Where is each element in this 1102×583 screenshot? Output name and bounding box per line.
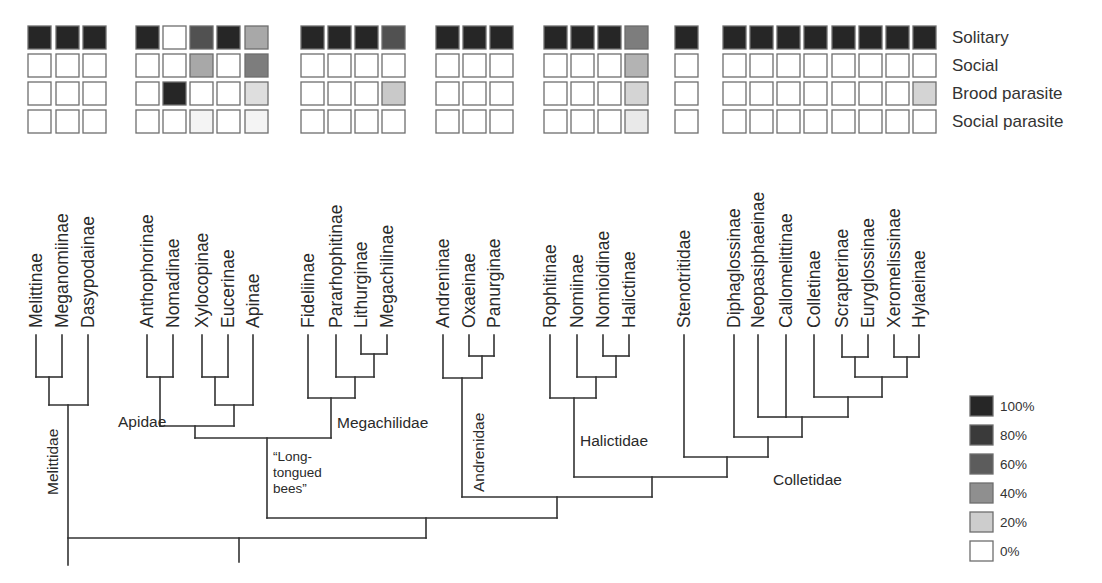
heatmap-cell <box>750 110 773 133</box>
heatmap-cell <box>28 82 51 105</box>
taxon-label: Panurginae <box>484 238 504 328</box>
heatmap-cell <box>723 110 746 133</box>
heatmap-cell <box>598 26 621 49</box>
clade-labels: ApidaeMegachilidaeHalictidaeColletidaeMe… <box>44 413 842 496</box>
heatmap-cell <box>136 110 159 133</box>
row-label: Solitary <box>952 28 1009 47</box>
legend-swatch <box>970 396 993 416</box>
heatmap-cell <box>301 82 324 105</box>
heatmap-cell <box>217 110 240 133</box>
heatmap-cell <box>463 110 486 133</box>
heatmap-cell <box>544 82 567 105</box>
legend-label: 40% <box>1000 486 1027 501</box>
heatmap-cell <box>675 110 698 133</box>
heatmap-cell <box>913 110 936 133</box>
heatmap-cell <box>777 110 800 133</box>
taxon-label: Neopasiphaeinae <box>748 192 768 328</box>
heatmap-cell <box>598 82 621 105</box>
heatmap-cell <box>382 110 405 133</box>
legend-label: 60% <box>1000 457 1027 472</box>
heatmap-cell <box>544 26 567 49</box>
heatmap-cell <box>217 26 240 49</box>
heatmap-cell <box>382 26 405 49</box>
legend-label: 80% <box>1000 428 1027 443</box>
heatmap-cell <box>245 54 268 77</box>
heatmap-cell <box>723 82 746 105</box>
heatmap-cell <box>777 54 800 77</box>
heatmap-cell <box>190 110 213 133</box>
heatmap-cell <box>571 26 594 49</box>
heatmap-cell <box>886 82 909 105</box>
heatmap-cell <box>163 82 186 105</box>
heatmap-cell <box>750 54 773 77</box>
taxon-label: Anthophorinae <box>137 214 157 328</box>
heatmap-cell <box>28 54 51 77</box>
heatmap-cell <box>301 110 324 133</box>
taxon-label: Callomelittinae <box>776 213 796 328</box>
heatmap-cell <box>217 54 240 77</box>
heatmap-cell <box>886 26 909 49</box>
heatmap-cell <box>83 54 106 77</box>
heatmap-cell <box>777 26 800 49</box>
taxon-label: Dasypodainae <box>78 216 98 328</box>
long-tongued-bees-label: “Long- <box>273 449 312 464</box>
heatmap-cell <box>675 54 698 77</box>
heatmap-cell <box>544 110 567 133</box>
clade-label: Andrenidae <box>470 413 487 492</box>
legend-label: 100% <box>1000 399 1035 414</box>
heatmap-cell <box>382 82 405 105</box>
heatmap-cell <box>190 54 213 77</box>
taxon-label: Halictinae <box>619 251 639 328</box>
heatmap-cell <box>56 54 79 77</box>
behavior-row-labels: SolitarySocialBrood parasiteSocial paras… <box>952 28 1064 131</box>
heatmap-cell <box>675 82 698 105</box>
heatmap-cell <box>804 54 827 77</box>
heatmap-cell <box>28 26 51 49</box>
heatmap-cell <box>163 54 186 77</box>
heatmap-cell <box>859 54 882 77</box>
heatmap-cell <box>777 82 800 105</box>
heatmap-cell <box>598 54 621 77</box>
heatmap-cell <box>723 54 746 77</box>
bee-phylogeny-figure: SolitarySocialBrood parasiteSocial paras… <box>0 0 1102 583</box>
heatmap-cell <box>804 26 827 49</box>
clade-label: Megachilidae <box>337 414 428 431</box>
heatmap-cell <box>463 26 486 49</box>
heatmap-cell <box>859 26 882 49</box>
heatmap-cell <box>190 26 213 49</box>
legend-swatch <box>970 512 993 532</box>
heatmap-cell <box>832 54 855 77</box>
row-label: Social parasite <box>952 112 1064 131</box>
taxon-label: Nomadinae <box>163 239 183 329</box>
behavior-heatmap <box>28 26 936 133</box>
long-tongued-bees-label: bees” <box>273 481 307 496</box>
clade-label: Halictidae <box>580 432 648 449</box>
heatmap-cell <box>245 110 268 133</box>
heatmap-cell <box>355 26 378 49</box>
legend-swatch <box>970 454 993 474</box>
heatmap-cell <box>859 82 882 105</box>
taxon-label: Diphaglossinae <box>724 208 744 328</box>
heatmap-cell <box>832 26 855 49</box>
heatmap-cell <box>913 26 936 49</box>
taxon-label: Lithurginae <box>351 241 371 328</box>
taxon-label: Oxaeinae <box>459 253 479 328</box>
heatmap-cell <box>190 82 213 105</box>
heatmap-cell <box>571 82 594 105</box>
heatmap-cell <box>832 82 855 105</box>
heatmap-cell <box>245 82 268 105</box>
heatmap-cell <box>750 82 773 105</box>
heatmap-cell <box>436 110 459 133</box>
heatmap-cell <box>355 110 378 133</box>
heatmap-cell <box>886 110 909 133</box>
heatmap-cell <box>301 54 324 77</box>
heatmap-cell <box>136 26 159 49</box>
taxon-label: Xylocopinae <box>192 233 212 328</box>
heatmap-cell <box>382 54 405 77</box>
row-label: Social <box>952 56 998 75</box>
heatmap-cell <box>56 110 79 133</box>
heatmap-cell <box>490 82 513 105</box>
taxon-label: Hylaeinae <box>909 250 929 328</box>
taxon-label: Euryglossinae <box>858 218 878 328</box>
clade-label: Melittidae <box>44 429 61 495</box>
